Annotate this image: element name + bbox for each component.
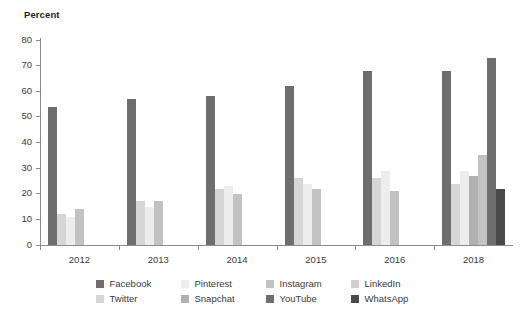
legend-swatch-icon [181,280,189,288]
legend-label: LinkedIn [365,278,401,289]
y-tick-label: 20 [21,187,32,199]
x-tick-label: 2016 [384,254,405,265]
bar-pinterest-2012 [66,217,75,245]
bar-facebook-2016 [363,71,372,245]
x-tick-label: 2018 [463,254,484,265]
x-tick-label: 2012 [69,254,90,265]
bar-pinterest-2016 [381,171,390,245]
chart-legend: FacebookPinterestInstagramLinkedIn Twitt… [0,278,531,304]
bar-instagram-2013 [154,201,163,245]
y-tick-label: 70 [21,59,32,71]
legend-item-twitter[interactable]: Twitter [96,293,181,304]
legend-item-instagram[interactable]: Instagram [266,278,351,289]
plot-area [40,40,513,245]
x-tick-label: 2013 [148,254,169,265]
legend-swatch-icon [266,280,274,288]
legend-row-2: TwitterSnapchatYouTubeWhatsApp [96,293,436,304]
bar-twitter-2016 [372,178,381,245]
x-tick-mark [277,245,278,250]
bar-twitter-2014 [215,189,224,245]
bar-instagram-2016 [390,191,399,245]
bar-twitter-2015 [294,178,303,245]
bar-snapchat-2018 [469,176,478,245]
legend-swatch-icon [351,295,359,303]
legend-label: Twitter [110,293,138,304]
legend-item-whatsapp[interactable]: WhatsApp [351,293,436,304]
bar-instagram-2014 [233,194,242,245]
bar-pinterest-2018 [460,171,469,245]
bar-pinterest-2013 [145,207,154,245]
x-tick-mark [40,245,41,250]
legend-label: Facebook [110,278,152,289]
bar-pinterest-2014 [224,186,233,245]
x-tick-mark [355,245,356,250]
bar-facebook-2018 [442,71,451,245]
x-tick-label: 2015 [305,254,326,265]
legend-label: WhatsApp [365,293,409,304]
legend-item-youtube[interactable]: YouTube [266,293,351,304]
legend-label: Snapchat [195,293,235,304]
bar-youtube-2018 [487,58,496,245]
y-tick-label: 40 [21,136,32,148]
x-tick-mark [434,245,435,250]
bar-instagram-2015 [312,189,321,245]
bar-facebook-2012 [48,107,57,245]
x-tick-mark [119,245,120,250]
legend-item-snapchat[interactable]: Snapchat [181,293,266,304]
legend-label: Pinterest [195,278,233,289]
legend-swatch-icon [351,280,359,288]
legend-swatch-icon [96,295,104,303]
bar-instagram-2012 [75,209,84,245]
bar-facebook-2015 [285,86,294,245]
y-tick-label: 80 [21,34,32,46]
legend-item-pinterest[interactable]: Pinterest [181,278,266,289]
legend-item-linkedin[interactable]: LinkedIn [351,278,436,289]
bar-twitter-2013 [136,201,145,245]
bar-facebook-2014 [206,96,215,245]
legend-label: Instagram [280,278,322,289]
x-tick-label: 2014 [226,254,247,265]
legend-row-1: FacebookPinterestInstagramLinkedIn [96,278,436,289]
y-tick-label: 60 [21,85,32,97]
chart-root: Percent 01020304050607080 20122013201420… [0,0,531,328]
bar-pinterest-2015 [303,184,312,246]
legend-swatch-icon [96,280,104,288]
y-tick-label: 0 [27,239,32,251]
bar-instagram-2018 [478,155,487,245]
legend-swatch-icon [181,295,189,303]
y-tick-label: 30 [21,162,32,174]
bar-twitter-2018 [451,184,460,246]
y-tick-label: 50 [21,110,32,122]
bar-whatsapp-2018 [496,189,505,245]
x-tick-mark [198,245,199,250]
legend-item-facebook[interactable]: Facebook [96,278,181,289]
legend-label: YouTube [280,293,317,304]
bar-twitter-2012 [57,214,66,245]
bar-facebook-2013 [127,99,136,245]
y-tick-label: 10 [21,213,32,225]
legend-swatch-icon [266,295,274,303]
y-axis-title: Percent [24,9,60,20]
